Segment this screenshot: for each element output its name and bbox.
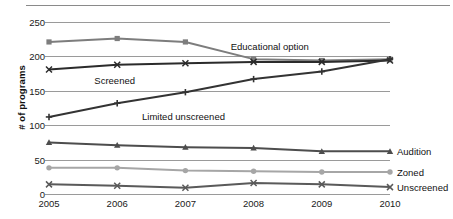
series-line [49, 183, 390, 188]
data-point-marker [387, 169, 392, 174]
data-point-marker [46, 39, 51, 44]
x-tick-label: 2005 [38, 198, 59, 209]
x-tick-label: 2010 [379, 198, 400, 209]
y-tick-label: 50 [34, 154, 45, 165]
data-point-marker [250, 76, 256, 82]
y-tick-label: 250 [29, 17, 45, 28]
data-point-marker [182, 89, 188, 95]
chart-figure: # of programs 050100150200250 2005200620… [0, 0, 453, 219]
y-tick-label: 150 [29, 85, 45, 96]
y-tick-label: 200 [29, 51, 45, 62]
data-point-marker [46, 114, 52, 120]
data-point-marker [183, 168, 188, 173]
x-tick-label: 2008 [243, 198, 264, 209]
x-tick-label: 2006 [107, 198, 128, 209]
series-label: Audition [397, 146, 431, 157]
gridline [49, 194, 390, 195]
x-tick-label: 2007 [175, 198, 196, 209]
series-line [49, 142, 390, 151]
plot-area: 050100150200250 200520062007200820092010… [49, 22, 390, 194]
series-lines-group [49, 22, 390, 194]
data-point-marker [183, 39, 188, 44]
data-point-marker [115, 165, 120, 170]
series-label: Screened [93, 75, 136, 86]
series-label: Limited unscreened [141, 111, 226, 122]
series-line [49, 39, 390, 61]
y-axis-title: # of programs [16, 53, 27, 143]
data-point-marker [251, 169, 256, 174]
series-line [49, 168, 390, 172]
data-point-marker [319, 169, 324, 174]
y-tick-mark [45, 194, 49, 195]
data-point-marker [114, 100, 120, 106]
x-tick-label: 2009 [311, 198, 332, 209]
top-divider-rule [26, 5, 450, 6]
data-point-marker [319, 68, 325, 74]
data-point-marker [46, 165, 51, 170]
series-label: Educational option [230, 41, 310, 52]
y-tick-label: 100 [29, 120, 45, 131]
data-point-marker [115, 36, 120, 41]
series-label: Zoned [397, 166, 424, 177]
series-line [49, 59, 390, 117]
series-label: Unscreened [397, 182, 448, 193]
